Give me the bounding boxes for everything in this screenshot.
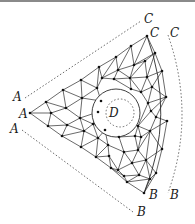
mesh-edge xyxy=(152,87,166,97)
mesh-node xyxy=(113,78,116,81)
mesh-node xyxy=(147,102,150,105)
label-c-outer-top: C xyxy=(144,12,153,26)
label-a-outer-top: A xyxy=(12,90,22,104)
mesh-edge xyxy=(116,46,131,57)
mesh-edge xyxy=(62,136,81,147)
mesh-node xyxy=(101,77,104,80)
mesh-edge xyxy=(108,145,124,152)
mesh-node xyxy=(123,175,126,178)
mesh-edge xyxy=(119,137,124,152)
mesh-edge xyxy=(51,108,66,113)
mesh-edge xyxy=(118,70,130,78)
mesh-edge xyxy=(96,145,108,157)
mesh-edge xyxy=(82,88,97,98)
mesh-edge xyxy=(114,78,130,79)
mesh-node xyxy=(98,66,101,69)
mesh-edge xyxy=(81,80,82,98)
mesh-node xyxy=(155,116,158,119)
mesh-edge xyxy=(80,118,93,124)
mesh-edge xyxy=(46,90,63,102)
mesh-edge xyxy=(148,87,152,103)
mesh-edge xyxy=(81,80,97,88)
mesh-edge xyxy=(130,77,147,78)
mesh-node xyxy=(83,130,86,133)
mesh-node xyxy=(117,69,120,72)
mesh-node xyxy=(118,136,121,139)
mesh-edge xyxy=(139,175,150,179)
mesh-edge xyxy=(141,131,150,137)
mesh-node xyxy=(29,112,32,115)
mesh-edge xyxy=(67,118,80,125)
label-b-outer-bottom: B xyxy=(136,205,146,219)
mesh-edge xyxy=(96,156,109,157)
mesh-node xyxy=(110,167,113,170)
mesh-node xyxy=(140,91,143,94)
mesh-edge xyxy=(51,113,67,125)
mesh-edge xyxy=(124,175,139,176)
mesh-node xyxy=(140,136,143,139)
mesh-node xyxy=(117,169,120,172)
mesh-node xyxy=(155,172,158,175)
mesh-node xyxy=(134,135,137,138)
mesh-edge xyxy=(147,77,152,87)
mesh-node xyxy=(137,149,140,152)
label-c-corner: C xyxy=(150,26,159,40)
mesh-edge xyxy=(138,126,150,131)
mesh-node xyxy=(96,87,99,90)
mesh-node xyxy=(146,35,149,38)
mesh-node xyxy=(79,117,82,120)
mesh-edge xyxy=(96,157,111,168)
mesh-node xyxy=(92,123,95,126)
mesh-edge xyxy=(46,102,51,113)
mesh-edge xyxy=(139,160,146,175)
mesh-edge xyxy=(48,126,62,136)
mesh-node xyxy=(161,70,164,73)
mesh-edge xyxy=(132,163,139,175)
label-a-outer-bottom: A xyxy=(9,122,19,136)
mesh-edge xyxy=(146,131,150,160)
mesh-node xyxy=(130,45,133,48)
mesh-edge xyxy=(150,131,162,149)
mesh-edge xyxy=(63,90,82,98)
label-b-corner: B xyxy=(148,188,158,202)
mesh-node xyxy=(108,155,111,158)
mesh-edge xyxy=(62,131,84,136)
mesh-edge xyxy=(81,67,99,80)
mesh-node xyxy=(166,120,169,123)
mesh-edge xyxy=(67,125,84,131)
mesh-edge xyxy=(80,98,82,118)
mesh-edge xyxy=(81,147,96,157)
mesh-node xyxy=(151,86,154,89)
mesh-edge xyxy=(132,160,146,163)
mesh-edge xyxy=(48,125,67,126)
mesh-node xyxy=(45,101,48,104)
mesh-node xyxy=(104,129,107,132)
mesh-edge xyxy=(156,117,167,121)
mesh-node xyxy=(80,79,83,82)
mesh-node xyxy=(161,148,164,151)
mesh-edge xyxy=(30,102,46,113)
mesh-edge xyxy=(162,71,166,97)
mesh-edge xyxy=(162,121,167,149)
mesh-node xyxy=(133,64,136,67)
mesh-node xyxy=(146,76,149,79)
mesh-edge xyxy=(138,150,146,160)
mesh-edge xyxy=(138,126,141,137)
mesh-edge xyxy=(116,57,118,70)
mesh-edge xyxy=(46,102,66,108)
mesh-node xyxy=(137,125,140,128)
label-d-center: D xyxy=(108,106,119,120)
mesh-edge xyxy=(66,108,80,118)
mesh-node xyxy=(95,156,98,159)
mesh-node xyxy=(144,60,147,63)
mesh-edge xyxy=(135,136,138,150)
mesh-edge xyxy=(48,113,51,126)
mesh-edge xyxy=(63,90,66,108)
mesh-node xyxy=(131,162,134,165)
mesh-edge xyxy=(150,121,167,131)
mesh-edge xyxy=(62,125,67,136)
mesh-edge xyxy=(81,138,98,147)
dashed-arc-c-b xyxy=(168,35,182,193)
mesh-node xyxy=(80,146,83,149)
mesh-edge xyxy=(132,150,138,163)
